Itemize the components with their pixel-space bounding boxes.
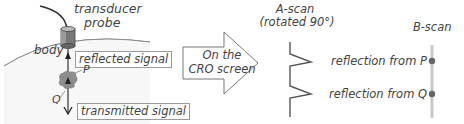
a-scan-title: A-scan: [262, 4, 328, 16]
arrow-text-line1: On the: [190, 50, 254, 62]
probe-label-line2: probe: [84, 17, 120, 30]
transmitted-signal-label: transmitted signal: [77, 103, 190, 120]
b-scan-dot-p: [429, 58, 435, 64]
arrow-text-line2: CRO screen: [186, 64, 258, 76]
reflection-q-label: reflection from Q: [329, 89, 427, 101]
probe-cable: [40, 6, 67, 30]
point-q-label: Q: [52, 94, 61, 105]
a-scan-subtitle: (rotated 90°): [256, 17, 338, 29]
b-scan-title: B-scan: [413, 22, 452, 34]
probe-label-line1: transducer: [74, 3, 142, 16]
reflection-p-label: reflection from P: [331, 56, 427, 68]
body-label: body: [34, 44, 64, 56]
a-scan-trace: [290, 42, 311, 117]
b-scan-dot-q: [429, 91, 435, 97]
point-p-label: P: [83, 64, 90, 75]
